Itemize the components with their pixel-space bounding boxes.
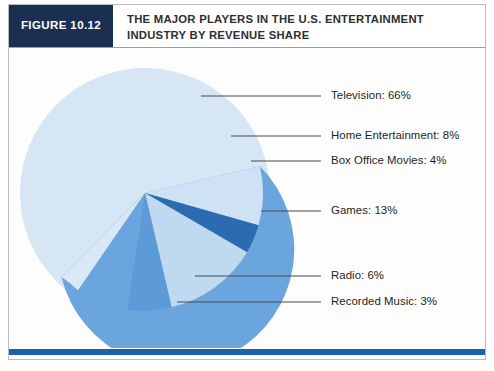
page-title-line-1: THE MAJOR PLAYERS IN THE U.S. ENTERTAINM… [127, 12, 485, 28]
page-title: THE MAJOR PLAYERS IN THE U.S. ENTERTAINM… [113, 5, 485, 47]
label-box-office-movies: Box Office Movies: 4% [331, 154, 446, 166]
pie-chart: Television: 66% Home Entertainment: 8% B… [9, 48, 485, 348]
label-television: Television: 66% [331, 89, 411, 101]
bottom-accent-bar [9, 349, 485, 355]
label-games: Games: 13% [331, 204, 397, 216]
label-recorded-music: Recorded Music: 3% [331, 295, 437, 307]
figure-number-badge: FIGURE 10.12 [9, 5, 113, 47]
figure-container: FIGURE 10.12 THE MAJOR PLAYERS IN THE U.… [0, 0, 494, 371]
figure-header: FIGURE 10.12 THE MAJOR PLAYERS IN THE U.… [9, 5, 485, 47]
page-title-line-2: INDUSTRY BY REVENUE SHARE [127, 28, 485, 44]
label-home-entertainment: Home Entertainment: 8% [331, 129, 459, 141]
label-radio: Radio: 6% [331, 269, 384, 281]
